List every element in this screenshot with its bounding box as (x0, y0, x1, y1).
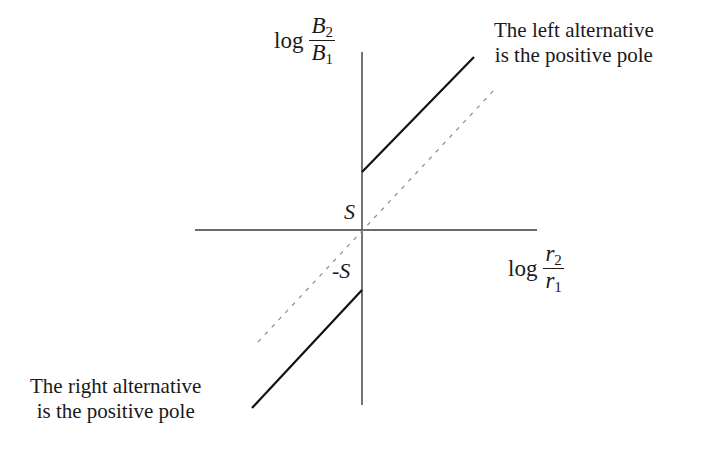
decision-threshold-diagram: log B2 B1 log r2 r1 S -S The left altern… (0, 0, 713, 456)
lower-threshold-line (252, 290, 362, 408)
denominator-sub: 1 (554, 279, 562, 295)
lower-left-annotation-line-2: is the positive pole (30, 399, 201, 424)
upper-threshold-line (362, 57, 474, 172)
y-axis-label: log B2 B1 (274, 14, 335, 67)
x-axis-fraction: r2 r1 (543, 242, 563, 295)
x-axis-label-log: log (508, 256, 537, 281)
lower-left-annotation: The right alternative is the positive po… (30, 374, 201, 424)
upper-right-annotation: The left alternative is the positive pol… (494, 18, 654, 68)
x-axis-denominator: r1 (543, 269, 563, 295)
y-axis-label-log: log (274, 28, 303, 53)
y-axis-numerator: B2 (309, 14, 335, 41)
numerator-var: r (545, 241, 554, 266)
upper-right-annotation-line-2: is the positive pole (494, 43, 654, 68)
lower-left-annotation-line-1: The right alternative (30, 374, 201, 399)
numerator-var: B (311, 13, 325, 38)
numerator-sub: 2 (325, 24, 333, 40)
x-axis-label: log r2 r1 (508, 242, 564, 295)
denominator-var: r (545, 268, 554, 293)
denominator-sub: 1 (325, 51, 333, 67)
denominator-var: B (311, 40, 325, 65)
y-axis-denominator: B1 (309, 41, 335, 67)
upper-right-annotation-line-1: The left alternative (494, 18, 654, 43)
dashed-diagonal-line (258, 89, 495, 342)
x-axis-numerator: r2 (543, 242, 563, 269)
upper-intercept-label: S (344, 199, 355, 224)
y-axis-fraction: B2 B1 (309, 14, 335, 67)
lower-intercept-label: -S (332, 258, 350, 283)
numerator-sub: 2 (554, 252, 562, 268)
